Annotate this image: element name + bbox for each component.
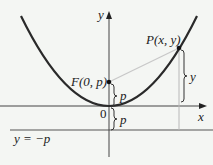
brace-directrix-icon — [111, 108, 117, 130]
focus-point — [107, 80, 112, 85]
point-label: P(x, y) — [145, 32, 181, 47]
x-axis-label: x — [197, 109, 204, 124]
brace-directrix-label: p — [119, 112, 127, 127]
origin-label: 0 — [100, 106, 107, 121]
directrix-label: y = −p — [12, 131, 51, 146]
focus-label: F(0, p) — [70, 74, 107, 89]
brace-focus-label: p — [119, 88, 127, 103]
brace-point-icon — [181, 50, 187, 102]
brace-point-label: y — [188, 69, 196, 84]
parabola-diagram: y x 0 F(0, p) P(x, y) y = −p p p y — [0, 0, 213, 165]
y-axis-arrow-icon — [106, 11, 112, 19]
brace-focus-icon — [111, 84, 117, 107]
y-axis-label: y — [96, 7, 104, 22]
